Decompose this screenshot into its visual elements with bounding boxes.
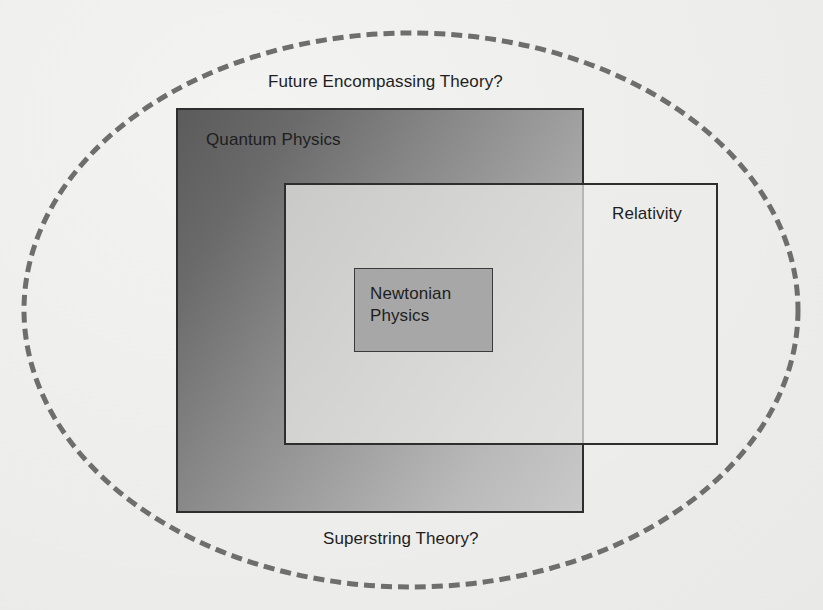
newtonian-physics-label: Newtonian Physics — [370, 283, 480, 327]
quantum-physics-label: Quantum Physics — [206, 130, 341, 150]
future-encompassing-theory-label: Future Encompassing Theory? — [268, 72, 503, 92]
superstring-theory-label: Superstring Theory? — [323, 529, 479, 549]
relativity-label: Relativity — [612, 204, 682, 224]
diagram-canvas: Future Encompassing Theory? Quantum Phys… — [0, 0, 823, 610]
newtonian-label-line2: Physics — [370, 305, 480, 327]
newtonian-label-line1: Newtonian — [370, 283, 480, 305]
